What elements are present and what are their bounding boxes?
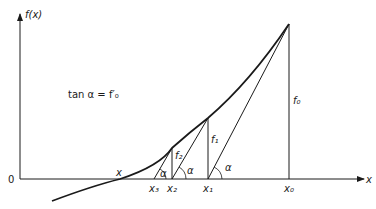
x2-label: x₂: [167, 184, 177, 194]
formula-label: tan α = f′₀: [68, 90, 119, 100]
root-label: x: [116, 168, 122, 178]
angle-arc-2: [179, 167, 186, 179]
angle-label-1: α: [225, 163, 232, 173]
x-axis-label: x: [366, 175, 372, 185]
diagram-canvas: [0, 0, 376, 209]
x1-label: x₁: [203, 184, 213, 194]
f1-label: f₁: [211, 135, 219, 145]
angle-label-3: α: [160, 169, 167, 179]
y-axis-label: f(x): [25, 10, 42, 20]
newton-method-figure: f(x) x 0 tan α = f′₀ x x₀ x₁ x₂ x₃ f₀ f₁…: [0, 0, 376, 209]
tangent-0: [208, 24, 289, 179]
x0-label: x₀: [284, 184, 294, 194]
angle-arc-1: [214, 167, 222, 179]
f2-label: f₂: [175, 151, 183, 161]
x3-label: x₃: [149, 184, 159, 194]
f0-label: f₀: [293, 96, 301, 106]
function-curve: [52, 24, 289, 201]
angle-label-2: α: [187, 166, 194, 176]
origin-label: 0: [8, 175, 14, 185]
